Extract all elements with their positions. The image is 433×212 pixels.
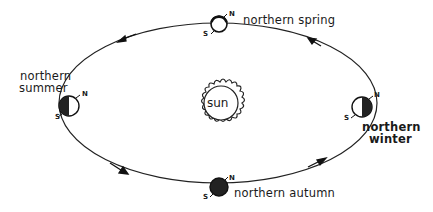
spring-label: northern spring: [243, 14, 335, 26]
winter-north-label: N: [374, 91, 380, 99]
summer-north-label: N: [82, 90, 88, 98]
winter-label-line2: winter: [369, 133, 412, 145]
seasons-orbit-diagram: sun N S northern spring northern summer …: [0, 0, 433, 212]
earth-summer-icon: [58, 95, 80, 117]
orbit-arrow-top-right: [308, 38, 321, 46]
autumn-north-label: N: [229, 174, 235, 182]
earth-spring-icon: [211, 14, 227, 34]
orbit-arrow-top-left: [118, 34, 136, 42]
winter-south-label: S: [344, 114, 349, 122]
earth-winter-icon: [351, 96, 373, 118]
spring-north-label: N: [229, 10, 235, 18]
sun-label: sun: [207, 96, 228, 110]
autumn-south-label: S: [203, 193, 208, 201]
autumn-label: northern autumn: [234, 187, 335, 199]
spring-south-label: S: [203, 30, 208, 38]
summer-label-line2: summer: [19, 82, 68, 94]
summer-south-label: S: [55, 113, 60, 121]
earth-autumn-icon: [210, 177, 228, 197]
